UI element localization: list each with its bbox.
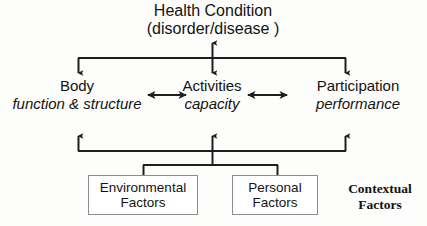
personal-factors-line1: Personal <box>233 180 317 195</box>
contextual-factors-line1: Contextual <box>334 181 426 197</box>
component-activities-sub: capacity <box>152 96 272 113</box>
component-body-name: Body <box>2 78 152 95</box>
contextual-factors-label: Contextual Factors <box>334 181 426 213</box>
component-activities-name: Activities <box>152 78 272 95</box>
component-participation: Participation performance <box>290 78 426 112</box>
component-participation-sub: performance <box>290 96 426 113</box>
component-participation-name: Participation <box>290 78 426 95</box>
personal-factors-box: Personal Factors <box>232 175 318 215</box>
health-condition-label: Health Condition (disorder/disease ) <box>113 2 313 38</box>
health-condition-line1: Health Condition <box>113 2 313 19</box>
personal-factors-line2: Factors <box>233 195 317 210</box>
health-condition-line2: (disorder/disease ) <box>113 20 313 37</box>
environmental-factors-box: Environmental Factors <box>88 175 198 215</box>
environmental-factors-line2: Factors <box>89 195 197 210</box>
component-body: Body function & structure <box>2 78 152 112</box>
component-activities: Activities capacity <box>152 78 272 112</box>
environmental-factors-line1: Environmental <box>89 180 197 195</box>
contextual-factors-line2: Factors <box>334 197 426 213</box>
component-body-sub: function & structure <box>2 96 152 113</box>
